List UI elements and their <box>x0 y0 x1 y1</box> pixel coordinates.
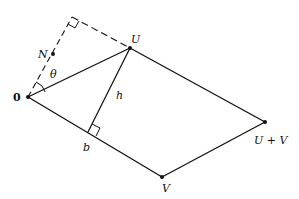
label-U: U <box>131 33 141 46</box>
projection-dashed-line <box>72 17 130 48</box>
height-line <box>88 48 130 132</box>
label-N: N <box>37 48 48 61</box>
parallelogram-diagram: 0 U V U + V N θ h b <box>0 0 299 199</box>
edge-V-UplusV <box>162 122 265 177</box>
edge-U-UplusV <box>130 48 265 122</box>
point-V <box>160 175 164 179</box>
point-origin <box>26 95 30 99</box>
label-theta: θ <box>50 68 57 81</box>
label-b: b <box>83 141 90 154</box>
label-h: h <box>116 89 123 102</box>
label-V: V <box>162 182 171 195</box>
right-angle-marker-foot <box>92 124 100 136</box>
point-N <box>51 52 55 56</box>
point-UplusV <box>263 120 267 124</box>
normal-dashed-line <box>28 17 72 97</box>
point-U <box>128 46 132 50</box>
label-origin: 0 <box>13 91 21 104</box>
label-UplusV: U + V <box>254 134 288 147</box>
edge-0-V <box>28 97 162 177</box>
